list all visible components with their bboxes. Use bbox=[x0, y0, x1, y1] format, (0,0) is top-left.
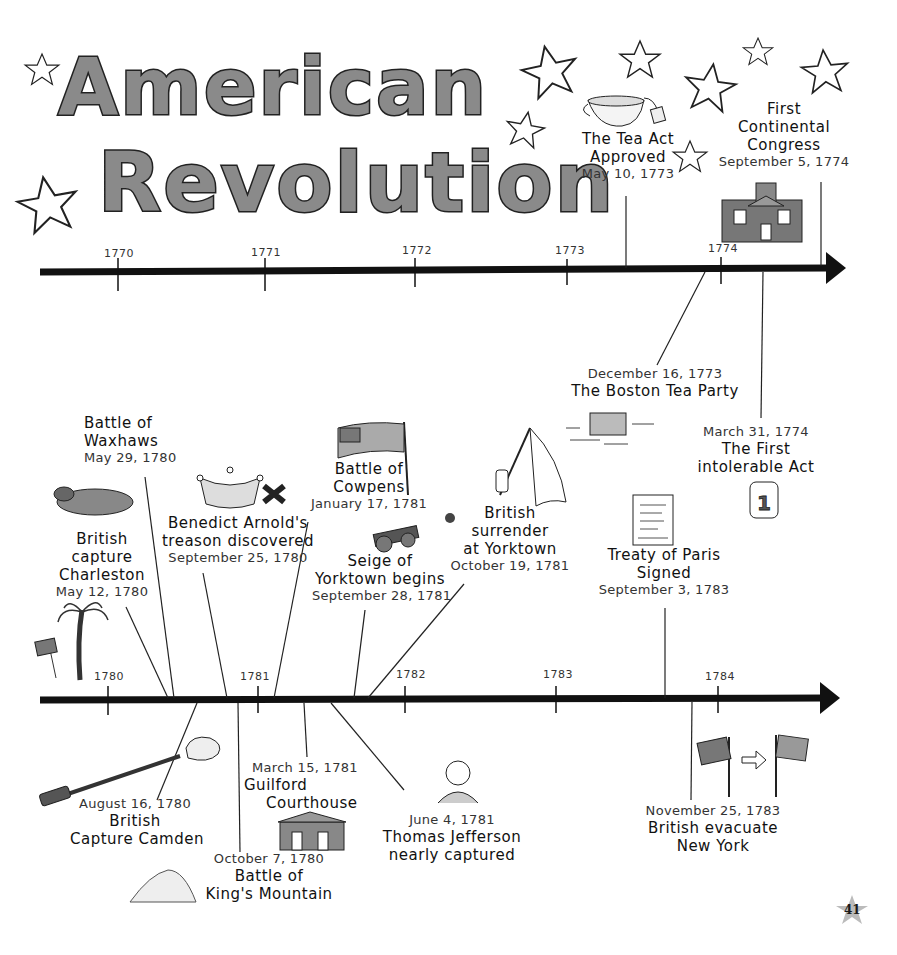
star-icon bbox=[743, 38, 772, 65]
star-icon bbox=[14, 172, 81, 235]
event-british-surrender-yorktown: British surrender at Yorktown October 19… bbox=[450, 504, 570, 574]
star-icon bbox=[620, 41, 660, 77]
courthouse-icon bbox=[278, 812, 346, 850]
year-label: 1784 bbox=[705, 670, 735, 683]
event-battle-of-waxhaws: Battle of Waxhaws May 29, 1780 bbox=[84, 414, 184, 466]
event-british-capture-camden: August 16, 1780 British Capture Camden bbox=[70, 796, 200, 848]
page-title-line-2: Revolution bbox=[98, 142, 615, 224]
cannon-icon bbox=[373, 513, 455, 552]
building-icon bbox=[722, 183, 802, 242]
year-label: 1770 bbox=[104, 247, 134, 260]
year-label: 1774 bbox=[708, 242, 738, 255]
event-treaty-of-paris: Treaty of Paris Signed September 3, 1783 bbox=[596, 546, 732, 598]
palm-tree-flag-icon bbox=[35, 603, 108, 680]
event-british-capture-charleston: British capture Charleston May 12, 1780 bbox=[52, 530, 152, 600]
event-guilford-courthouse: March 15, 1781 Guilford Courthouse bbox=[244, 760, 364, 812]
event-first-intolerable-act: March 31, 1774 The First intolerable Act bbox=[694, 424, 818, 476]
star-icon bbox=[518, 41, 582, 101]
star-icon bbox=[25, 54, 59, 84]
event-boston-tea-party: December 16, 1773 The Boston Tea Party bbox=[560, 366, 750, 400]
event-battle-of-kings-mountain: October 7, 1780 Battle of King's Mountai… bbox=[204, 851, 334, 903]
flags-exchange-icon bbox=[697, 735, 808, 797]
page-number: 41 bbox=[844, 903, 861, 917]
mountain-icon bbox=[130, 870, 196, 902]
year-label: 1782 bbox=[396, 668, 426, 681]
event-benedict-arnold-treason: Benedict Arnold's treason discovered Sep… bbox=[156, 514, 320, 566]
teacup-icon bbox=[583, 96, 665, 126]
scroll-icon: 1 bbox=[750, 482, 778, 518]
year-label: 1773 bbox=[555, 244, 585, 257]
jefferson-portrait-icon bbox=[438, 761, 478, 803]
horse-icon bbox=[54, 487, 133, 515]
year-label: 1780 bbox=[94, 670, 124, 683]
page-title-line-1: American bbox=[58, 48, 488, 126]
year-label: 1783 bbox=[543, 668, 573, 681]
crown-cross-icon bbox=[197, 467, 284, 508]
treaty-document-icon bbox=[633, 495, 673, 545]
year-label: 1772 bbox=[402, 244, 432, 257]
event-first-continental-congress: First Continental Congress September 5, … bbox=[716, 100, 852, 170]
event-siege-of-yorktown: Seige of Yorktown begins September 28, 1… bbox=[312, 552, 448, 604]
scroll-label: 1 bbox=[757, 491, 771, 515]
event-tea-act: The Tea Act Approved May 10, 1773 bbox=[568, 130, 688, 182]
event-battle-of-cowpens: Battle of Cowpens January 17, 1781 bbox=[304, 460, 434, 512]
year-label: 1771 bbox=[251, 246, 281, 259]
event-jefferson-nearly-captured: June 4, 1781 Thomas Jefferson nearly cap… bbox=[374, 812, 530, 864]
event-british-evacuate-new-york: November 25, 1783 British evacuate New Y… bbox=[638, 803, 788, 855]
year-label: 1781 bbox=[240, 670, 270, 683]
tea-crate-icon bbox=[566, 413, 654, 444]
star-icon bbox=[800, 48, 850, 94]
white-flag-icon bbox=[496, 428, 566, 506]
